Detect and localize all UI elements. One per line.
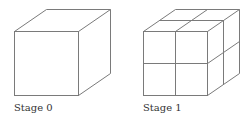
stage-1-label: Stage 1: [143, 102, 182, 113]
cube-side-face: [79, 10, 111, 96]
cube-stage-0: [15, 10, 111, 96]
stage-0-label: Stage 0: [14, 102, 53, 113]
cube-top-face: [15, 10, 111, 32]
cube-front-face: [15, 32, 79, 96]
cube-stage-1: [144, 10, 240, 96]
